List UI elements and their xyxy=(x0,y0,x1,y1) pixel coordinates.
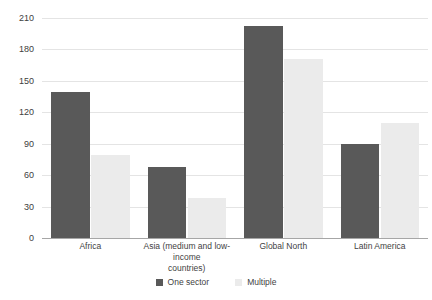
legend-label: One sector xyxy=(168,277,210,287)
x-axis-category-label: Africa xyxy=(42,241,139,252)
bar xyxy=(341,144,380,238)
x-axis-line xyxy=(42,238,428,239)
gridline xyxy=(42,49,428,50)
bar xyxy=(148,167,187,238)
legend-label: Multiple xyxy=(247,277,276,287)
x-axis-category-labels: AfricaAsia (medium and low-income countr… xyxy=(42,241,428,271)
legend-swatch-icon xyxy=(235,279,242,286)
gridline xyxy=(42,112,428,113)
bar xyxy=(244,26,283,238)
y-axis-tick-labels: 0306090120150180210 xyxy=(0,0,38,300)
y-axis-tick-label: 150 xyxy=(19,77,34,86)
bar xyxy=(51,92,90,238)
legend-item[interactable]: One sector xyxy=(156,277,210,287)
y-axis-tick-label: 90 xyxy=(24,140,34,149)
plot-area xyxy=(42,18,428,238)
gridline xyxy=(42,18,428,19)
y-axis-tick-label: 30 xyxy=(24,203,34,212)
legend-item[interactable]: Multiple xyxy=(235,277,276,287)
bar xyxy=(381,123,420,238)
x-axis-category-label: Global North xyxy=(235,241,332,252)
bar-chart: 0306090120150180210 AfricaAsia (medium a… xyxy=(0,0,432,300)
y-axis-tick-label: 120 xyxy=(19,108,34,117)
y-axis-tick-label: 0 xyxy=(29,234,34,243)
gridline xyxy=(42,81,428,82)
bar xyxy=(188,198,227,238)
bar xyxy=(284,59,323,238)
x-axis-category-label: Latin America xyxy=(332,241,429,252)
y-axis-tick-label: 180 xyxy=(19,45,34,54)
bar xyxy=(91,155,130,238)
x-axis-category-label: Asia (medium and low-income countries) xyxy=(139,241,236,274)
y-axis-tick-label: 60 xyxy=(24,171,34,180)
y-axis-tick-label: 210 xyxy=(19,14,34,23)
legend-swatch-icon xyxy=(156,279,163,286)
chart-legend: One sectorMultiple xyxy=(0,277,432,287)
